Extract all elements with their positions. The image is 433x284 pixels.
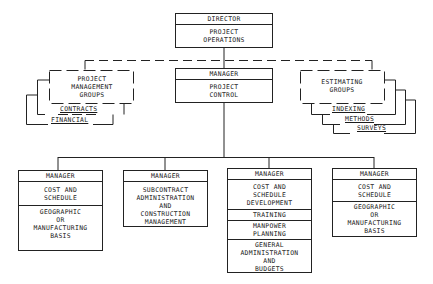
manager-title: MANAGER (333, 169, 416, 179)
manager-box-cost-schedule-1: MANAGER COST AND SCHEDULE GEOGRAPHIC OR … (18, 170, 103, 251)
project-control-box: MANAGER PROJECT CONTROL (175, 68, 273, 103)
manager-section: GENERAL ADMINISTRATION AND BUDGETS (228, 239, 311, 275)
manager-title: MANAGER (19, 171, 102, 181)
indexing-label: INDEXING (332, 105, 365, 113)
financial-label: FINANCIAL (51, 116, 88, 124)
manager-section: TRAINING (228, 209, 311, 220)
manager-section: COST AND SCHEDULE DEVELOPMENT (228, 179, 311, 209)
surveys-label: SURVEYS (357, 124, 386, 132)
project-control-title: MANAGER (176, 69, 272, 79)
manager-section: MANPOWER PLANNING (228, 220, 311, 239)
manager-section: GEOGRAPHIC OR MANUFACTURING BASIS (333, 201, 416, 237)
director-unit: PROJECT OPERATIONS (176, 24, 272, 46)
manager-box-cost-schedule-development: MANAGER COST AND SCHEDULE DEVELOPMENT TR… (227, 168, 312, 273)
estimating-groups-label: ESTIMATING GROUPS (302, 78, 382, 94)
manager-title: MANAGER (124, 171, 207, 181)
manager-box-cost-schedule-2: MANAGER COST AND SCHEDULE GEOGRAPHIC OR … (332, 168, 417, 237)
manager-title: MANAGER (228, 169, 311, 179)
manager-section: GEOGRAPHIC OR MANUFACTURING BASIS (19, 205, 102, 244)
methods-label: METHODS (345, 115, 374, 123)
manager-box-subcontract: MANAGER SUBCONTRACT ADMINISTRATION AND C… (123, 170, 208, 227)
project-management-groups-label: PROJECT MANAGEMENT GROUPS (52, 75, 132, 99)
project-control-unit: PROJECT CONTROL (176, 79, 272, 101)
contracts-label: CONTRACTS (60, 105, 97, 113)
manager-section: SUBCONTRACT ADMINISTRATION AND CONSTRUCT… (124, 181, 207, 229)
director-box: DIRECTOR PROJECT OPERATIONS (175, 13, 273, 48)
director-title: DIRECTOR (176, 14, 272, 24)
manager-section: COST AND SCHEDULE (19, 181, 102, 205)
manager-section: COST AND SCHEDULE (333, 179, 416, 201)
